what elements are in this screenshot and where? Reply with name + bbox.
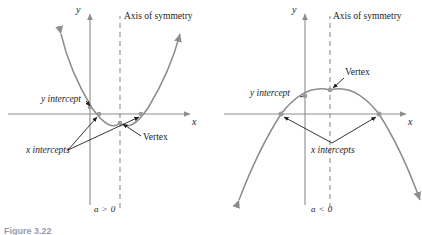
left-x-axis-label: x (192, 117, 196, 127)
figure-container: y x Axis of symmetry y intercept x inter… (0, 0, 422, 235)
right-x-intercept-leader-2 (332, 117, 376, 143)
right-y-intercept-point (303, 94, 308, 99)
right-x-intercept-point-2 (377, 112, 382, 117)
left-vertex-leader (123, 124, 141, 136)
panel-right-artwork (224, 14, 420, 208)
right-vertex-leader (333, 78, 344, 88)
right-vertex-point (328, 88, 333, 93)
left-axis-of-symmetry-label: Axis of symmetry (124, 12, 193, 22)
right-x-intercepts-label: x intercepts (311, 146, 355, 156)
left-x-intercepts-label: x intercepts (26, 146, 70, 156)
right-y-axis-label: y (292, 5, 296, 15)
left-condition-label: a > 0 (94, 205, 116, 214)
left-x-intercept-point-1 (97, 112, 102, 117)
left-vertex-label: Vertex (143, 133, 168, 143)
left-y-intercept-label: y intercept (41, 95, 81, 105)
right-x-axis-label: x (408, 117, 412, 127)
right-y-intercept-leader (300, 96, 303, 97)
left-x-intercept-point-2 (139, 112, 144, 117)
right-x-intercept-leader-1 (284, 117, 332, 143)
left-y-axis-label: y (76, 5, 80, 15)
right-axis-of-symmetry-label: Axis of symmetry (333, 12, 402, 22)
right-x-intercept-point-1 (279, 112, 284, 117)
left-x-intercept-leader-1 (68, 117, 97, 150)
figure-artwork (0, 0, 422, 235)
right-y-intercept-label: y intercept (250, 89, 290, 99)
figure-caption: Figure 3.22 (4, 227, 52, 235)
right-vertex-label: Vertex (345, 68, 370, 78)
panel-left-artwork (8, 14, 190, 208)
right-condition-label: a < 0 (311, 205, 333, 214)
